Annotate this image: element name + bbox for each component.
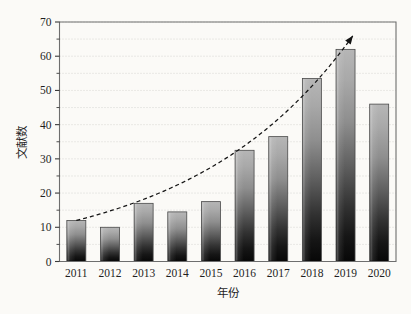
bar-highlight [202,202,210,260]
bar-chart-svg: 010203040506070 201120122013201420152016… [0,0,411,314]
bar-highlight [169,213,177,261]
y-tick-label: 70 [40,16,52,28]
x-tick-label: 2011 [65,267,88,279]
x-tick-label: 2015 [199,267,222,279]
x-axis-title: 年份 [217,286,240,300]
x-tick-label: 2016 [233,267,256,279]
y-tick-label: 60 [40,50,52,62]
bar-highlight [236,151,244,261]
x-tick-label: 2017 [267,267,290,279]
y-tick-label: 40 [40,119,52,131]
y-tick-label: 30 [40,153,52,165]
x-tick-label: 2018 [300,267,323,279]
y-axis-title: 文献数 [15,125,29,159]
bar-highlight [135,204,143,261]
bar-highlight [68,221,76,260]
x-tick-label: 2012 [98,267,121,279]
bar-highlight [370,105,378,261]
x-tick-label: 2013 [132,267,155,279]
bar-highlight [101,228,109,261]
x-tick-label: 2020 [368,267,391,279]
y-tick-label: 50 [40,84,52,96]
x-tick-label: 2014 [166,267,189,279]
chart-figure: 010203040506070 201120122013201420152016… [0,0,411,314]
x-tick-label: 2019 [334,267,357,279]
y-tick-label: 0 [46,256,52,268]
bar-highlight [303,79,311,260]
y-tick-label: 20 [40,187,52,199]
bar-highlight [270,137,278,260]
bar-highlight [337,50,345,261]
y-tick-label: 10 [40,221,52,233]
